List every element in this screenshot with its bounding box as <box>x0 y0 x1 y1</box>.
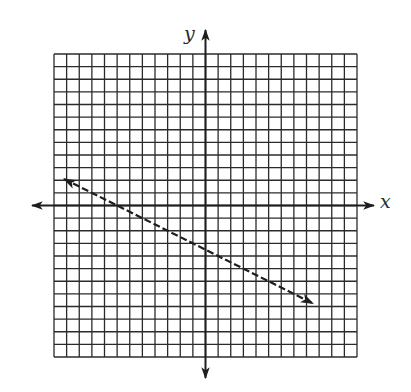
graph-svg <box>0 0 411 392</box>
dashed-line <box>64 179 313 303</box>
plotted-line <box>64 179 313 303</box>
y-axis-label: y <box>184 24 195 43</box>
coordinate-plane: x y <box>0 0 411 392</box>
axes <box>32 30 374 378</box>
x-axis-label: x <box>380 192 391 211</box>
